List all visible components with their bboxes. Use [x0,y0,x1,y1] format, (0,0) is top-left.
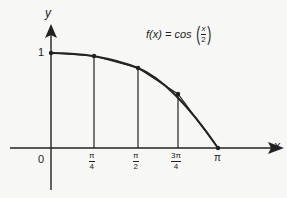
function-arg-fraction: x 2 [201,25,205,44]
point [92,54,96,58]
origin-label: 0 [38,154,44,165]
point [136,66,140,70]
function-label: f(x) = cos ( x 2 ) [146,24,212,44]
x-tick-pi: π [214,153,221,163]
paren-right: ) [207,24,211,44]
point [176,92,180,96]
x-tick-pi-4: π4 [89,152,95,171]
diagram-canvas [0,0,287,198]
curve-cos-x-over-2 [51,53,218,148]
point [216,146,220,150]
y-axis-label: y [45,7,51,19]
function-label-text: f(x) = cos [146,28,192,40]
x-axis-label: x [274,140,280,152]
y-tick-1: 1 [38,47,44,58]
x-tick-3pi-4: 3π4 [171,152,181,171]
x-tick-pi-2: π2 [133,152,139,171]
paren-left: ( [196,24,200,44]
point [49,51,53,55]
